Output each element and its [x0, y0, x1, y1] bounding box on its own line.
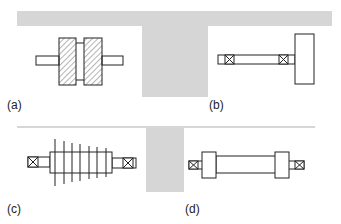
shaft-body: [216, 156, 276, 173]
hatched-disk-left: [59, 38, 76, 85]
panel-b-diagram: [218, 34, 314, 84]
bearing-left-icon: [189, 161, 198, 169]
label-a: (a): [7, 98, 22, 112]
bearing-left-icon: [28, 157, 38, 167]
disk-left: [202, 152, 216, 178]
overhung-rotor-disk: [295, 34, 314, 84]
bottom-vertical-band: [146, 127, 184, 192]
panel-a-diagram: [36, 38, 123, 85]
panel-c-diagram: [28, 139, 136, 186]
shaft-left-stub: [36, 56, 59, 65]
bearing-right-icon: [279, 55, 288, 64]
disk-right: [275, 152, 289, 178]
hatched-disk-right: [84, 38, 102, 85]
rotor-drum: [50, 152, 112, 173]
label-d: (d): [185, 202, 200, 216]
bearing-left-icon: [225, 55, 234, 64]
panel-d-diagram: [189, 152, 304, 178]
figure-canvas: (a) (b): [0, 0, 341, 224]
label-c: (c): [7, 202, 21, 216]
label-b: (b): [209, 98, 224, 112]
top-vertical-band: [142, 11, 208, 97]
bearing-right-icon: [123, 158, 133, 168]
bearing-right-icon: [295, 161, 304, 169]
shaft-right-stub: [102, 56, 123, 65]
